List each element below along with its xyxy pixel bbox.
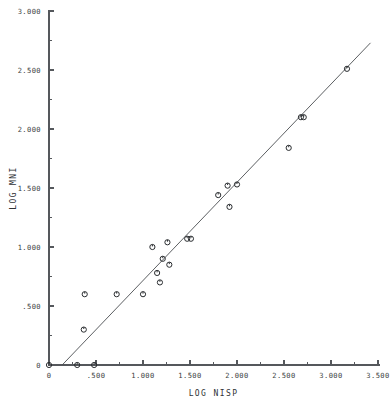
y-tick-label: 0 xyxy=(36,361,41,370)
x-tick-label: 1.000 xyxy=(131,371,154,380)
scatter-plot: 0.5001.0001.5002.0002.5003.0003.500 0.50… xyxy=(0,0,392,405)
data-point xyxy=(227,204,232,209)
x-tick-label: 2.500 xyxy=(272,371,295,380)
x-tick-labels: 0.5001.0001.5002.0002.5003.0003.500 xyxy=(47,371,390,380)
data-point xyxy=(140,292,145,297)
data-point xyxy=(216,192,221,197)
y-tick-label: 1.500 xyxy=(18,184,41,193)
y-tick-label: 1.000 xyxy=(18,243,41,252)
data-points xyxy=(46,66,349,367)
data-point xyxy=(155,270,160,275)
regression-line xyxy=(62,43,370,365)
data-point xyxy=(165,240,170,245)
y-tick-label: 2.000 xyxy=(18,125,41,134)
data-point xyxy=(150,244,155,249)
data-point xyxy=(114,292,119,297)
y-tick-labels: 0.5001.0001.5002.0002.5003.000 xyxy=(18,7,41,370)
x-tick-label: 1.500 xyxy=(178,371,201,380)
data-point xyxy=(157,280,162,285)
x-axis-title: LOG NISP xyxy=(189,389,239,398)
data-point xyxy=(160,256,165,261)
y-tick-label: 2.500 xyxy=(18,66,41,75)
x-tick-label: 0 xyxy=(47,371,52,380)
data-point xyxy=(82,292,87,297)
axes xyxy=(48,11,380,366)
data-point xyxy=(188,236,193,241)
y-tick-label: .500 xyxy=(22,302,41,311)
x-tick-label: 3.000 xyxy=(319,371,342,380)
y-tick-label: 3.000 xyxy=(18,7,41,16)
x-tick-label: .500 xyxy=(87,371,106,380)
chart-page: 0.5001.0001.5002.0002.5003.0003.500 0.50… xyxy=(0,0,392,405)
data-point xyxy=(81,327,86,332)
data-point xyxy=(225,183,230,188)
x-tick-label: 2.000 xyxy=(225,371,248,380)
y-axis-title: LOG MNI xyxy=(9,166,18,210)
x-tick-label: 3.500 xyxy=(366,371,389,380)
data-point xyxy=(167,262,172,267)
data-point xyxy=(286,145,291,150)
